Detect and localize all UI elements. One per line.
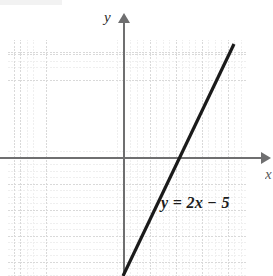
equation-label: y = 2x − 5 (161, 195, 230, 211)
graph-figure: y x y = 2x − 5 (0, 0, 273, 276)
plotted-line (0, 0, 273, 276)
